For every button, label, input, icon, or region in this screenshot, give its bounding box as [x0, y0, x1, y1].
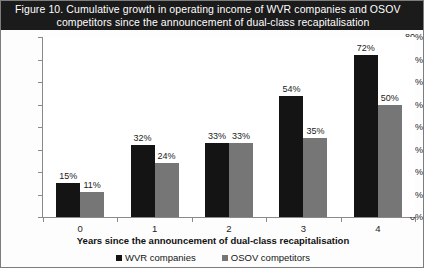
- figure-container: Figure 10. Cumulative growth in operatin…: [0, 0, 424, 268]
- figure-title: Figure 10. Cumulative growth in operatin…: [1, 1, 424, 30]
- y-axis-tick-mark: [38, 37, 42, 38]
- y-axis-tick-mark: [38, 195, 42, 196]
- x-axis-tick-label: 1: [140, 223, 170, 234]
- y-axis-tick-mark: [38, 82, 42, 83]
- legend-item: WVR companies: [116, 252, 196, 263]
- bar-osov-year-0: [80, 192, 104, 217]
- chart-legend: WVR companiesOSOV competitors: [1, 252, 424, 263]
- legend-label: WVR companies: [125, 252, 196, 263]
- bar-osov-year-1: [155, 163, 179, 217]
- y-axis-tick-mark: [38, 217, 42, 218]
- bar-osov-year-2: [229, 143, 253, 217]
- y-axis-tick-mark: [38, 127, 42, 128]
- plot-area: 15%11%32%24%33%33%54%35%72%50%: [43, 37, 415, 217]
- y-axis-tick-mark: [38, 172, 42, 173]
- bar-osov-year-3: [303, 138, 327, 217]
- x-axis-tick-mark: [43, 218, 44, 222]
- x-axis-tick-mark: [117, 218, 118, 222]
- bar-wvr-year-0: [56, 183, 80, 217]
- y-axis-tick-mark: [38, 150, 42, 151]
- legend-swatch-icon: [222, 255, 228, 261]
- x-axis-tick-label: 0: [65, 223, 95, 234]
- figure-title-line-1: Figure 10. Cumulative growth in operatin…: [9, 3, 417, 16]
- legend-swatch-icon: [116, 255, 122, 261]
- bar-wvr-year-3: [279, 96, 303, 218]
- bar-value-label: 35%: [306, 126, 324, 136]
- bar-value-label: 24%: [158, 151, 176, 161]
- bar-wvr-year-4: [354, 55, 378, 217]
- x-axis-title: Years since the announcement of dual-cla…: [1, 235, 424, 246]
- legend-label: OSOV competitors: [231, 252, 310, 263]
- x-axis-line: [42, 217, 416, 218]
- bar-wvr-year-1: [131, 145, 155, 217]
- figure-title-line-2: competitors since the announcement of du…: [9, 16, 417, 29]
- bar-value-label: 11%: [84, 180, 101, 190]
- x-axis-tick-mark: [192, 218, 193, 222]
- bar-value-label: 72%: [357, 43, 375, 53]
- x-axis-tick-mark: [415, 218, 416, 222]
- bar-value-label: 32%: [134, 133, 152, 143]
- x-axis-tick-mark: [266, 218, 267, 222]
- x-axis-tick-label: 4: [363, 223, 393, 234]
- bar-osov-year-4: [378, 105, 402, 218]
- bar-value-label: 33%: [208, 131, 226, 141]
- bar-value-label: 33%: [232, 131, 250, 141]
- y-axis-tick-mark: [38, 105, 42, 106]
- bar-value-label: 54%: [282, 84, 300, 94]
- x-axis-tick-mark: [341, 218, 342, 222]
- bar-value-label: 50%: [381, 93, 399, 103]
- x-axis-tick-label: 3: [288, 223, 318, 234]
- bar-wvr-year-2: [205, 143, 229, 217]
- y-axis-tick-mark: [38, 60, 42, 61]
- legend-item: OSOV competitors: [222, 252, 310, 263]
- x-axis-tick-label: 2: [214, 223, 244, 234]
- bar-value-label: 15%: [59, 171, 77, 181]
